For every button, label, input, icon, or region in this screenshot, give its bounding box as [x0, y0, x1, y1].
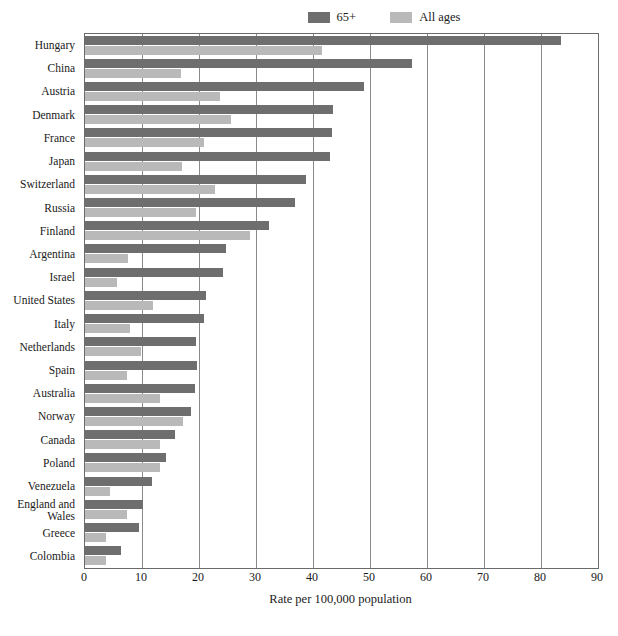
bar-65plus	[85, 221, 269, 230]
y-axis-label-england-and-wales: England andWales	[0, 499, 80, 522]
bar-65plus	[85, 384, 195, 393]
bar-65plus	[85, 198, 295, 207]
bar-all-ages	[85, 138, 204, 147]
bar-group	[85, 453, 598, 476]
bar-group	[85, 82, 598, 105]
x-tick-label: 50	[363, 570, 375, 585]
x-tick-label: 80	[534, 570, 546, 585]
bar-group	[85, 175, 598, 198]
y-axis-label-finland: Finland	[0, 226, 80, 238]
bar-65plus	[85, 152, 330, 161]
bar-65plus	[85, 128, 332, 137]
x-tick-label: 30	[249, 570, 261, 585]
bar-group	[85, 152, 598, 175]
bar-group	[85, 407, 598, 430]
bar-65plus	[85, 453, 166, 462]
x-axis-title: Rate per 100,000 population	[84, 592, 597, 607]
bar-all-ages	[85, 463, 160, 472]
y-axis-label-italy: Italy	[0, 319, 80, 331]
bar-all-ages	[85, 115, 231, 124]
y-axis-labels: HungaryChinaAustriaDenmarkFranceJapanSwi…	[0, 33, 80, 567]
bar-group	[85, 198, 598, 221]
chart-bars	[85, 34, 598, 568]
x-tick-label: 70	[477, 570, 489, 585]
y-axis-label-china: China	[0, 63, 80, 75]
bar-all-ages	[85, 69, 181, 78]
x-tick-label: 90	[591, 570, 603, 585]
y-axis-label-japan: Japan	[0, 156, 80, 168]
x-tick-label: 60	[420, 570, 432, 585]
bar-group	[85, 361, 598, 384]
bar-65plus	[85, 430, 175, 439]
bar-65plus	[85, 361, 197, 370]
legend-label-all-ages: All ages	[419, 10, 460, 25]
bar-65plus	[85, 337, 196, 346]
bar-65plus	[85, 407, 191, 416]
bar-group	[85, 500, 598, 523]
bar-all-ages	[85, 324, 130, 333]
bar-65plus	[85, 59, 412, 68]
bar-group	[85, 221, 598, 244]
y-axis-label-argentina: Argentina	[0, 249, 80, 261]
bar-all-ages	[85, 533, 106, 542]
y-axis-label-switzerland: Switzerland	[0, 179, 80, 191]
bar-all-ages	[85, 417, 183, 426]
bar-all-ages	[85, 278, 117, 287]
bar-all-ages	[85, 394, 160, 403]
chart-plot-area	[84, 33, 599, 569]
bar-65plus	[85, 244, 226, 253]
bar-group	[85, 268, 598, 291]
legend-item-all-ages: All ages	[390, 10, 460, 25]
x-tick-label: 40	[306, 570, 318, 585]
bar-all-ages	[85, 208, 196, 217]
legend-swatch-all-ages	[390, 12, 412, 23]
y-axis-label-spain: Spain	[0, 365, 80, 377]
bar-65plus	[85, 291, 206, 300]
bar-group	[85, 546, 598, 569]
bar-all-ages	[85, 440, 160, 449]
bar-all-ages	[85, 92, 220, 101]
legend-label-65plus: 65+	[337, 10, 357, 25]
bar-group	[85, 314, 598, 337]
y-axis-label-austria: Austria	[0, 86, 80, 98]
legend-item-65plus: 65+	[308, 10, 357, 25]
bar-65plus	[85, 268, 223, 277]
x-tick-label: 20	[192, 570, 204, 585]
bar-65plus	[85, 523, 139, 532]
bar-65plus	[85, 36, 561, 45]
y-axis-label-russia: Russia	[0, 203, 80, 215]
bar-65plus	[85, 314, 204, 323]
bar-all-ages	[85, 162, 182, 171]
bar-65plus	[85, 82, 364, 91]
y-axis-label-colombia: Colombia	[0, 551, 80, 563]
legend-swatch-65plus	[308, 12, 330, 23]
bar-all-ages	[85, 254, 128, 263]
bar-group	[85, 477, 598, 500]
y-axis-label-canada: Canada	[0, 435, 80, 447]
bar-group	[85, 430, 598, 453]
bar-all-ages	[85, 347, 141, 356]
bar-all-ages	[85, 301, 153, 310]
chart-legend: 65+ All ages	[0, 6, 618, 28]
bar-group	[85, 36, 598, 59]
bar-all-ages	[85, 487, 110, 496]
bar-all-ages	[85, 556, 106, 565]
y-axis-label-australia: Australia	[0, 388, 80, 400]
y-axis-label-venezuela: Venezuela	[0, 481, 80, 493]
bar-group	[85, 523, 598, 546]
bar-group	[85, 128, 598, 151]
bar-group	[85, 291, 598, 314]
bar-65plus	[85, 105, 333, 114]
y-axis-label-netherlands: Netherlands	[0, 342, 80, 354]
bar-all-ages	[85, 231, 250, 240]
bar-65plus	[85, 175, 306, 184]
y-axis-label-denmark: Denmark	[0, 110, 80, 122]
bar-group	[85, 59, 598, 82]
y-axis-label-poland: Poland	[0, 458, 80, 470]
bar-group	[85, 105, 598, 128]
bar-65plus	[85, 546, 121, 555]
bar-all-ages	[85, 185, 215, 194]
y-axis-label-greece: Greece	[0, 528, 80, 540]
bar-all-ages	[85, 46, 322, 55]
bar-65plus	[85, 477, 152, 486]
